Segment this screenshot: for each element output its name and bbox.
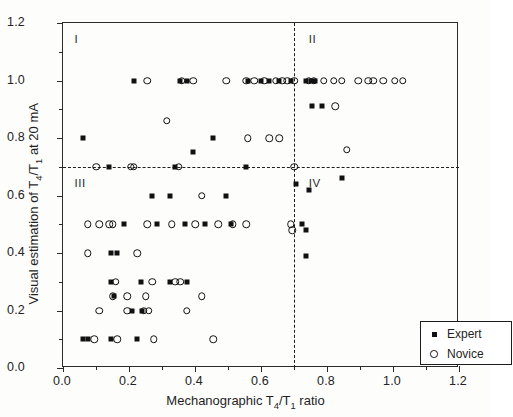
x-axis-title-pre: Mechanographic T: [166, 393, 273, 408]
y-axis-title-mid: /T: [26, 164, 41, 176]
x-tick-1: [393, 366, 394, 372]
legend: Expert Novice: [420, 321, 512, 365]
open-circle-icon: [421, 350, 447, 358]
data-point-novice: [332, 103, 340, 111]
data-point-expert: [85, 337, 90, 342]
data-point-expert: [303, 253, 308, 258]
data-point-expert: [310, 104, 315, 109]
data-point-novice: [109, 292, 117, 300]
quadrant-label-II: II: [309, 33, 316, 45]
y-minor-tick-1.1: [59, 52, 63, 53]
data-point-novice: [145, 307, 153, 315]
data-point-novice: [338, 77, 346, 85]
x-tick-label-0.2: 0.2: [108, 374, 148, 388]
data-point-novice: [209, 336, 217, 344]
y-tick-label-1.2: 1.2: [0, 15, 25, 29]
filled-square-icon: [421, 332, 447, 337]
y-tick-0.2: [57, 311, 63, 312]
data-point-novice: [96, 307, 104, 315]
data-point-novice: [355, 77, 363, 85]
data-point-novice: [91, 336, 99, 344]
x-minor-tick-1.1: [426, 366, 427, 370]
y-tick-0.6: [57, 196, 63, 197]
data-point-novice: [143, 77, 151, 85]
y-minor-tick-0.3: [59, 282, 63, 283]
data-point-novice: [330, 77, 338, 85]
data-point-novice: [191, 221, 199, 229]
data-point-novice: [163, 117, 171, 125]
x-axis-title-mid: /T: [279, 393, 291, 408]
x-tick-label-0.0: 0.0: [42, 374, 82, 388]
x-tick-0.2: [129, 366, 130, 372]
data-point-expert: [135, 337, 140, 342]
data-point-expert: [138, 279, 143, 284]
x-axis-title-post: ratio: [296, 393, 325, 408]
data-point-expert: [303, 228, 308, 233]
data-point-novice: [142, 292, 150, 300]
data-point-novice: [369, 77, 377, 85]
x-minor-tick-0.5: [228, 366, 229, 370]
data-point-novice: [290, 163, 298, 171]
y-axis-title-post: at 20 mA: [26, 103, 41, 159]
data-point-novice: [242, 221, 250, 229]
data-point-novice: [251, 77, 259, 85]
data-point-novice: [150, 336, 158, 344]
data-point-novice: [266, 134, 274, 142]
data-point-novice: [198, 192, 206, 200]
data-point-novice: [223, 77, 231, 85]
y-tick-label-0.0: 0.0: [0, 360, 25, 374]
legend-item-novice: Novice: [421, 344, 513, 364]
x-tick-1.2: [459, 366, 460, 372]
data-point-expert: [183, 222, 188, 227]
data-point-expert: [107, 164, 112, 169]
data-point-novice: [84, 249, 92, 257]
y-tick-0.8: [57, 138, 63, 139]
y-tick-label-0.4: 0.4: [0, 245, 25, 259]
x-tick-0.8: [327, 366, 328, 372]
x-tick-label-0.6: 0.6: [240, 374, 280, 388]
data-point-expert: [320, 104, 325, 109]
y-axis-title-sub1: 4: [34, 176, 44, 181]
data-point-novice: [214, 221, 222, 229]
data-point-novice: [84, 221, 92, 229]
y-tick-label-0.8: 0.8: [0, 130, 25, 144]
data-point-novice: [92, 163, 100, 171]
x-tick-label-1.2: 1.2: [438, 374, 478, 388]
data-point-novice: [124, 307, 132, 315]
data-point-expert: [155, 222, 160, 227]
quadrant-label-III: III: [75, 177, 86, 189]
data-point-novice: [130, 163, 138, 171]
y-minor-tick-0.9: [59, 109, 63, 110]
data-point-expert: [224, 193, 229, 198]
data-point-novice: [124, 292, 132, 300]
vertical-threshold: [294, 23, 295, 368]
y-tick-label-0.6: 0.6: [0, 188, 25, 202]
data-point-expert: [80, 136, 85, 141]
data-point-novice: [112, 278, 120, 286]
x-tick-0.6: [261, 366, 262, 372]
data-point-novice: [261, 77, 269, 85]
data-point-novice: [143, 221, 151, 229]
data-point-novice: [399, 77, 407, 85]
data-point-novice: [275, 134, 283, 142]
x-tick-label-0.8: 0.8: [306, 374, 346, 388]
y-axis-title: Visual estimation of T4/T1 at 20 mA: [26, 39, 44, 369]
data-point-expert: [108, 337, 113, 342]
data-point-novice: [379, 77, 387, 85]
y-tick-1: [57, 81, 63, 82]
data-point-novice: [320, 77, 328, 85]
data-point-expert: [306, 187, 311, 192]
data-point-novice: [310, 77, 318, 85]
data-point-novice: [178, 77, 186, 85]
data-point-novice: [289, 226, 297, 234]
data-point-novice: [109, 221, 117, 229]
data-point-novice: [343, 146, 351, 154]
data-point-expert: [211, 136, 216, 141]
x-minor-tick-0.9: [360, 366, 361, 370]
y-minor-tick-0.5: [59, 224, 63, 225]
data-point-novice: [114, 336, 122, 344]
data-point-novice: [391, 77, 399, 85]
data-point-expert: [244, 164, 249, 169]
quadrant-label-I: I: [75, 33, 79, 45]
plot-area: IIIIIIIV Expert Novice: [62, 22, 458, 367]
